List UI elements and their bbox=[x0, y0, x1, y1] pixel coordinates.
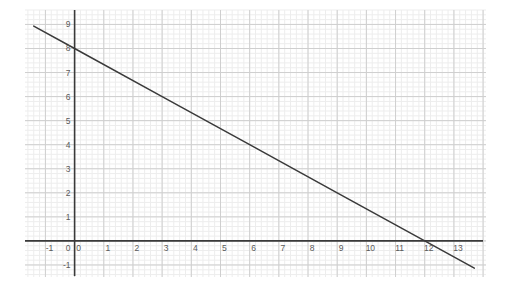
y-tick-label: 1 bbox=[66, 212, 71, 222]
y-tick-label: 0 bbox=[66, 243, 71, 253]
x-tick-label: 1 bbox=[105, 243, 110, 253]
x-tick-label: 4 bbox=[193, 243, 198, 253]
x-tick-label: 9 bbox=[339, 243, 344, 253]
graph-container: -1012345678910111213 -10123456789 bbox=[0, 0, 507, 284]
x-axis-tick-labels: -1012345678910111213 bbox=[46, 243, 463, 253]
x-tick-label: 7 bbox=[280, 243, 285, 253]
x-tick-label: 0 bbox=[76, 243, 81, 253]
line-graph: -1012345678910111213 -10123456789 bbox=[0, 0, 507, 284]
y-tick-label: 6 bbox=[66, 92, 71, 102]
y-tick-label: 7 bbox=[66, 68, 71, 78]
x-tick-label: 11 bbox=[395, 243, 404, 253]
y-tick-label: 3 bbox=[66, 164, 71, 174]
y-tick-label: 8 bbox=[66, 43, 71, 53]
x-tick-label: 2 bbox=[135, 243, 140, 253]
y-tick-label: 9 bbox=[66, 19, 71, 29]
x-tick-label: 3 bbox=[164, 243, 169, 253]
y-tick-label: 5 bbox=[66, 116, 71, 126]
x-tick-label: 12 bbox=[424, 243, 434, 253]
x-tick-label: 10 bbox=[366, 243, 376, 253]
x-tick-label: 6 bbox=[251, 243, 256, 253]
x-tick-label: 5 bbox=[222, 243, 227, 253]
x-tick-label: -1 bbox=[46, 243, 54, 253]
y-tick-label: 4 bbox=[66, 140, 71, 150]
x-tick-label: 8 bbox=[310, 243, 315, 253]
y-tick-label: 2 bbox=[66, 188, 71, 198]
y-tick-label: -1 bbox=[63, 260, 71, 270]
x-tick-label: 13 bbox=[453, 243, 463, 253]
